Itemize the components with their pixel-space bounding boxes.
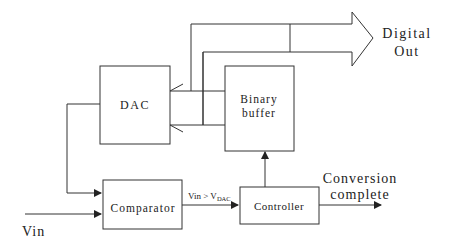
comparator-block: Comparator	[103, 180, 182, 229]
dac-to-comparator-line	[67, 104, 101, 193]
comparator-label: Comparator	[111, 202, 176, 215]
dac-label: DAC	[120, 98, 150, 112]
buffer-label-line2: buffer	[242, 107, 276, 119]
comparison-label: Vin > VDAC	[188, 191, 231, 202]
controller-label: Controller	[254, 200, 304, 212]
dac-block: DAC	[100, 66, 170, 144]
adc-block-diagram: DAC Binary buffer Vin Comparator Vin > V…	[0, 0, 450, 244]
vin-label: Vin	[22, 224, 45, 239]
digital-out-label-line2: Out	[394, 44, 420, 59]
buffer-label-line1: Binary	[240, 93, 277, 106]
digital-out-label-line1: Digital	[382, 26, 431, 41]
conversion-label-line2: complete	[330, 187, 389, 202]
controller-block: Controller	[240, 187, 319, 224]
conversion-label-line1: Conversion	[323, 171, 398, 186]
binary-buffer-block: Binary buffer	[225, 66, 294, 151]
